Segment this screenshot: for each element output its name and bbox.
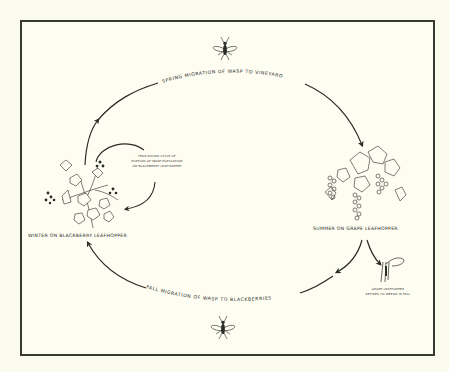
- spring-migration-arrow: [85, 83, 362, 165]
- blackberry-branch-illustration: [45, 160, 118, 228]
- to-weeds-arrow: [367, 240, 380, 264]
- weed-stem-icon: [381, 258, 404, 282]
- summer-label: Summer on grape leafhopper: [313, 226, 398, 231]
- wasp-icon: [211, 316, 236, 339]
- life-cycle-diagram: SPRING MIGRATION OF WASP TO VINEYARD FAL…: [0, 0, 449, 372]
- spring-migration-label: SPRING MIGRATION OF WASP TO VINEYARD: [161, 69, 283, 84]
- winter-label: Winter on blackberry leafhopper: [28, 233, 127, 238]
- grape-cluster-illustration: [325, 146, 406, 220]
- wasp-icon: [213, 37, 238, 60]
- year-round-cycle-note: Year-round cycle of portion of wasp popu…: [112, 154, 202, 170]
- grape-leafhopper-note: Grape leafhopper retires to weeds in fal…: [350, 287, 426, 297]
- fall-migration-label: FALL MIGRATION OF WASP TO BLACKBERRIES: [146, 284, 272, 302]
- fall-migration-arrow: [88, 240, 362, 293]
